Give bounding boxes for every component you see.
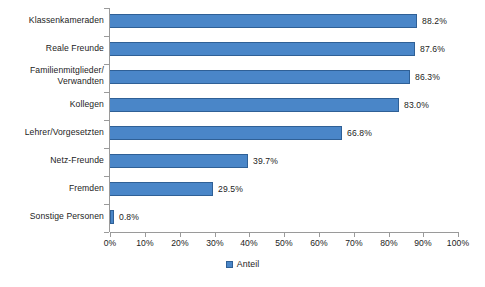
x-axis-label: 90% [403,238,443,248]
y-axis-tick [104,92,109,93]
category-label: Klassenkameraden [29,15,104,26]
y-axis-tick [104,8,109,9]
bar-chart: Klassenkameraden Reale Freunde Familienm… [0,0,485,287]
x-axis-label: 60% [299,238,339,248]
bar-klassenkameraden [110,14,417,28]
x-axis-tick [110,233,111,237]
bar-netz-freunde [110,154,248,168]
data-label: 0.8% [119,210,139,224]
x-axis-tick [319,233,320,237]
data-label: 86.3% [415,70,440,84]
legend-swatch-icon [226,261,233,268]
x-axis-tick [249,233,250,237]
x-axis-tick [145,233,146,237]
chart-legend: Anteil [0,259,485,269]
category-label: Sonstige Personen [30,211,104,222]
x-axis-tick [284,233,285,237]
x-axis-label: 10% [125,238,165,248]
bar-reale-freunde [110,42,415,56]
category-label: Kollegen [70,99,104,110]
x-axis-tick [354,233,355,237]
category-label: Netz-Freunde [50,155,104,166]
legend-label: Anteil [237,259,260,269]
data-label: 88.2% [422,14,447,28]
category-label: Familienmitglieder/ Verwandten [30,65,104,86]
data-label: 83.0% [404,98,429,112]
y-axis-tick [104,148,109,149]
x-axis-label: 50% [264,238,304,248]
category-label: Reale Freunde [46,43,104,54]
category-label: Lehrer/Vorgesetzten [25,127,104,138]
category-label: Fremden [69,183,104,194]
x-axis-tick [215,233,216,237]
y-axis-tick [104,120,109,121]
x-axis-label: 40% [229,238,269,248]
bar-familienmitglieder [110,70,410,84]
bar-fremden [110,182,213,196]
y-axis-tick [104,232,109,233]
data-label: 66.8% [347,126,372,140]
x-axis-label: 70% [334,238,374,248]
data-label: 39.7% [253,154,278,168]
bar-lehrer-vorgesetzten [110,126,342,140]
data-label: 87.6% [420,42,445,56]
x-axis-tick [389,233,390,237]
x-axis-tick [180,233,181,237]
bar-sonstige-personen [110,210,114,224]
x-axis-label: 100% [438,238,478,248]
bar-kollegen [110,98,399,112]
x-axis-label: 20% [160,238,200,248]
y-axis-tick [104,64,109,65]
data-label: 29.5% [218,182,243,196]
y-axis-tick [104,204,109,205]
y-axis-tick [104,36,109,37]
y-axis-tick [104,176,109,177]
x-axis-label: 0% [90,238,130,248]
x-axis-tick [423,233,424,237]
x-axis-tick [458,233,459,237]
